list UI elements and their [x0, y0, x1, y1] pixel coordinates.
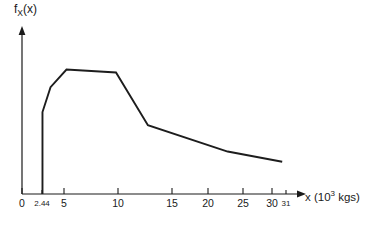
x-axis-tick-label: 10 — [112, 198, 124, 209]
x-axis-arrowhead — [297, 191, 306, 198]
x-axis-tick-label: 5 — [61, 198, 67, 209]
x-axis-tick-label: 25 — [237, 198, 249, 209]
x-axis-tick-marks — [22, 188, 286, 194]
x-axis-tick-label: 15 — [166, 198, 178, 209]
x-axis-tick-label: 31 — [282, 200, 291, 208]
density-plot-figure: fX(x) x (103 kgs) 02.445101520253031 — [0, 0, 380, 230]
x-axis-tick-label: 20 — [202, 198, 214, 209]
x-axis-tick-label: 0 — [19, 198, 25, 209]
x-axis-tick-label: 2.44 — [34, 200, 50, 208]
x-axis-tick-label: 30 — [266, 198, 278, 209]
y-axis-arrowhead — [19, 26, 26, 35]
plot-canvas — [0, 0, 380, 230]
density-curve — [42, 70, 282, 194]
